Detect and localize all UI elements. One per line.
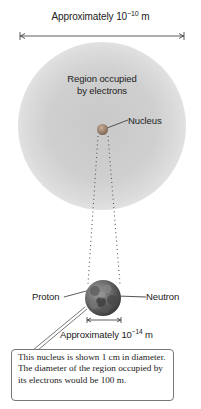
- bottom-dimension-arrow: [87, 317, 121, 323]
- electron-region-label: Region occupied by electrons: [50, 73, 154, 97]
- neutron-label: Neutron: [146, 291, 179, 302]
- bottom-dimension-label: Approximately 10−14 m: [60, 328, 153, 340]
- nucleus-label: Nucleus: [128, 115, 162, 126]
- nucleus-pointer-line: [107, 120, 128, 128]
- diagram-lines: [0, 0, 201, 409]
- projection-line-right: [108, 136, 120, 284]
- proton-label: Proton: [32, 291, 59, 302]
- nucleus-small-sphere: [97, 124, 108, 135]
- top-dimension-arrow: [20, 32, 184, 40]
- scale-callout-box: This nucleus is shown 1 cm in diameter. …: [11, 349, 174, 401]
- nucleon-pattern: [85, 280, 121, 316]
- projection-line-left: [88, 136, 98, 284]
- neutron-pointer-line: [118, 296, 146, 297]
- nucleus-enlarged-sphere: [85, 280, 121, 316]
